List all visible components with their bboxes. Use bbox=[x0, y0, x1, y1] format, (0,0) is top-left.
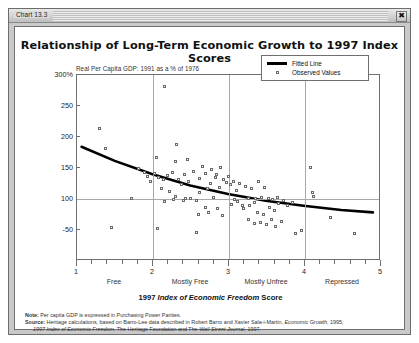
x-axis-title-tail: Score bbox=[259, 293, 282, 302]
x-axis-tick-label: 5 bbox=[378, 267, 382, 276]
window-title: Chart 13.3 bbox=[14, 11, 49, 18]
data-point bbox=[236, 200, 239, 203]
footnote-source-line2: 1997 Index of Economic Freedom, The Heri… bbox=[25, 326, 400, 333]
x-axis-title-plain: 1997 bbox=[139, 293, 158, 302]
note-text: Per capita GDP is expressed in Purchasin… bbox=[39, 312, 182, 318]
data-point bbox=[273, 209, 276, 212]
data-point bbox=[253, 201, 256, 204]
vertical-gridline bbox=[153, 75, 154, 259]
data-point bbox=[155, 156, 158, 159]
data-point bbox=[195, 231, 198, 234]
data-point bbox=[98, 127, 101, 130]
y-axis-tick-label: 150 bbox=[61, 163, 73, 172]
data-point bbox=[163, 200, 166, 203]
y-axis-labels: 300%250200150100-50 bbox=[15, 74, 73, 260]
x-axis-tick bbox=[289, 260, 290, 264]
data-point bbox=[166, 174, 169, 177]
y-axis-tick-label: 100 bbox=[61, 194, 73, 203]
x-axis-tick bbox=[365, 260, 366, 264]
y-axis-tick bbox=[76, 105, 80, 106]
legend-item-observed-values: Observed Values bbox=[266, 68, 364, 77]
data-point bbox=[216, 207, 219, 210]
x-axis-tick-label: 2 bbox=[150, 267, 154, 276]
legend-item-fitted-line: Fitted Line bbox=[266, 59, 364, 68]
data-point bbox=[201, 165, 204, 168]
data-point bbox=[238, 182, 241, 185]
data-point bbox=[229, 183, 232, 186]
data-point bbox=[291, 201, 294, 204]
data-point bbox=[198, 177, 201, 180]
source-text-4: 1997. bbox=[246, 326, 261, 332]
data-point bbox=[104, 147, 107, 150]
x-axis-tick bbox=[228, 260, 229, 266]
source-text-1: Heritage calculations, based on Barro-Le… bbox=[45, 319, 284, 325]
data-point bbox=[175, 143, 178, 146]
chart-legend: Fitted Line Observed Values bbox=[261, 55, 369, 81]
data-point bbox=[204, 206, 207, 209]
data-point bbox=[254, 197, 257, 200]
horizontal-gridline bbox=[77, 199, 379, 200]
data-point bbox=[263, 186, 266, 189]
window-titlebar[interactable]: Chart 13.3 ✖ bbox=[9, 9, 410, 23]
x-axis-tick bbox=[213, 260, 214, 264]
x-axis-tick bbox=[137, 260, 138, 264]
x-axis-tick bbox=[198, 260, 199, 264]
x-axis-title: 1997 Index of Economic Freedom Score bbox=[15, 293, 406, 302]
close-button[interactable]: ✖ bbox=[396, 11, 407, 22]
data-point bbox=[222, 178, 225, 181]
data-point bbox=[277, 202, 280, 205]
legend-square-swatch bbox=[266, 71, 288, 74]
data-point bbox=[253, 222, 256, 225]
data-point bbox=[353, 232, 356, 235]
data-point bbox=[209, 182, 212, 185]
data-point bbox=[195, 199, 198, 202]
legend-label: Fitted Line bbox=[292, 60, 322, 67]
x-axis-tick bbox=[350, 260, 351, 264]
data-point bbox=[197, 213, 200, 216]
data-point bbox=[157, 176, 160, 179]
footnote: Note: Per capita GDP is expressed in Pur… bbox=[25, 312, 400, 333]
data-point bbox=[146, 175, 149, 178]
data-point bbox=[210, 168, 213, 171]
data-point bbox=[189, 197, 192, 200]
vertical-gridline bbox=[305, 75, 306, 259]
data-point bbox=[174, 195, 177, 198]
data-point bbox=[207, 211, 210, 214]
data-point bbox=[262, 213, 265, 216]
data-point bbox=[248, 204, 251, 207]
y-axis-tick bbox=[76, 229, 80, 230]
data-point bbox=[168, 190, 171, 193]
data-point bbox=[257, 180, 260, 183]
data-point bbox=[227, 175, 230, 178]
source-text-2: 1995; bbox=[329, 319, 344, 325]
data-point bbox=[256, 211, 259, 214]
source-text-3: The Heritage Foundation and The bbox=[115, 326, 199, 332]
data-point bbox=[286, 204, 289, 207]
data-point bbox=[247, 218, 250, 221]
data-point bbox=[242, 207, 245, 210]
x-axis-title-italic: Index of Economic Freedom bbox=[158, 293, 260, 302]
x-axis-tick bbox=[304, 260, 305, 266]
data-point bbox=[177, 178, 180, 181]
data-point bbox=[276, 196, 279, 199]
data-point bbox=[259, 221, 262, 224]
data-point bbox=[180, 183, 183, 186]
data-point bbox=[198, 191, 201, 194]
data-point bbox=[186, 158, 189, 161]
x-axis-tick bbox=[319, 260, 320, 264]
x-axis-category-label: Free bbox=[107, 278, 121, 285]
data-point bbox=[232, 180, 235, 183]
note-label: Note: bbox=[25, 312, 39, 318]
data-point bbox=[235, 189, 238, 192]
fitted-line bbox=[77, 75, 379, 259]
data-point bbox=[163, 85, 166, 88]
legend-label: Observed Values bbox=[292, 69, 341, 76]
data-point bbox=[149, 180, 152, 183]
data-point bbox=[230, 203, 233, 206]
data-point bbox=[244, 185, 247, 188]
vertical-gridline bbox=[229, 75, 230, 259]
x-axis-category-label: Repressed bbox=[325, 278, 359, 285]
source-italic-1: Economic Growth, bbox=[285, 319, 329, 325]
chart-window: Chart 13.3 ✖ Relationship of Long-Term E… bbox=[8, 8, 411, 335]
y-axis-tick-label: -50 bbox=[63, 225, 73, 234]
